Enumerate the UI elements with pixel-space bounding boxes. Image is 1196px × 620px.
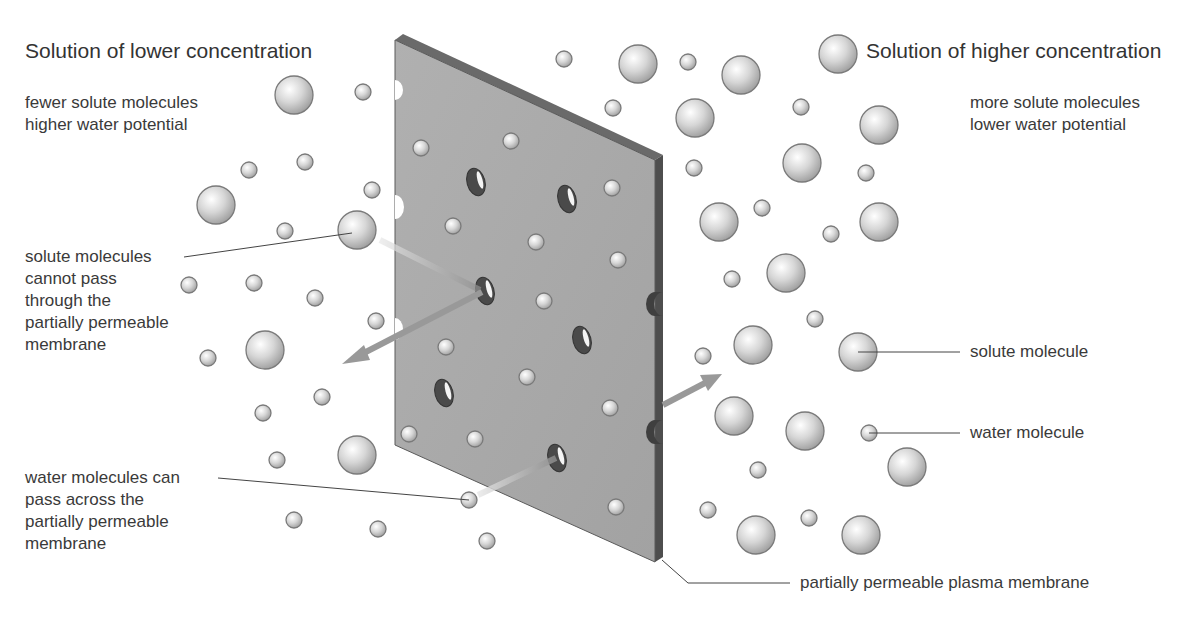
membrane-label: partially permeable plasma membrane <box>800 572 1089 594</box>
left-solution-title: Solution of lower concentration <box>25 38 312 64</box>
right-description: more solute molecules lower water potent… <box>970 92 1140 136</box>
water-can-pass-label: water molecules can pass across the part… <box>25 467 180 555</box>
water-molecule-label: water molecule <box>970 422 1084 444</box>
solute-cannot-pass-label: solute molecules cannot pass through the… <box>25 246 169 356</box>
solute-molecule-label: solute molecule <box>970 341 1088 363</box>
left-description: fewer solute molecules higher water pote… <box>25 92 198 136</box>
membrane <box>395 34 663 562</box>
right-solution-title: Solution of higher concentration <box>866 38 1161 64</box>
